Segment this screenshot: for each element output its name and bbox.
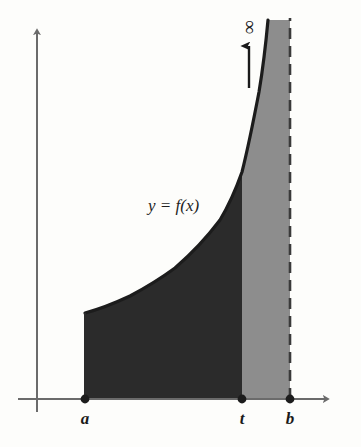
figure-container: ∞ y = f(x) a t b xyxy=(0,0,361,447)
curve-label: y = f(x) xyxy=(146,196,199,215)
tick-label-a: a xyxy=(81,409,90,428)
axis-point-a xyxy=(81,395,90,404)
infinity-symbol: ∞ xyxy=(238,20,259,34)
tick-label-t: t xyxy=(240,409,246,428)
integral-diagram: ∞ y = f(x) a t b xyxy=(0,0,361,447)
axis-point-t xyxy=(238,395,247,404)
tick-label-b: b xyxy=(286,409,295,428)
axis-point-b xyxy=(286,395,295,404)
